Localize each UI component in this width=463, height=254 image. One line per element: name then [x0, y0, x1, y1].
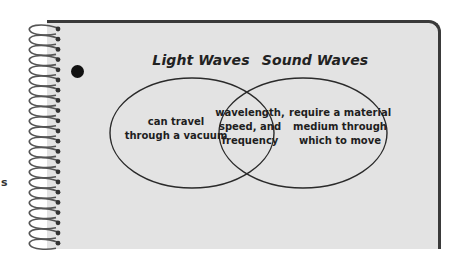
intersection-line-1: wavelength, [215, 106, 284, 120]
sound-line-3: which to move [289, 134, 391, 148]
sound-waves-unique: require a material medium through which … [289, 106, 391, 148]
light-waves-title: Light Waves [152, 52, 249, 68]
intersection-line-2: speed, and [215, 120, 284, 134]
intersection-line-3: frequency [215, 134, 284, 148]
sound-waves-title: Sound Waves [262, 52, 369, 68]
intersection-text: wavelength, speed, and frequency [215, 106, 284, 148]
light-line-1: can travel [125, 115, 228, 129]
light-line-2: through a vacuum [125, 129, 228, 143]
sound-line-1: require a material [289, 106, 391, 120]
sound-line-2: medium through [289, 120, 391, 134]
light-waves-unique: can travel through a vacuum [125, 115, 228, 143]
